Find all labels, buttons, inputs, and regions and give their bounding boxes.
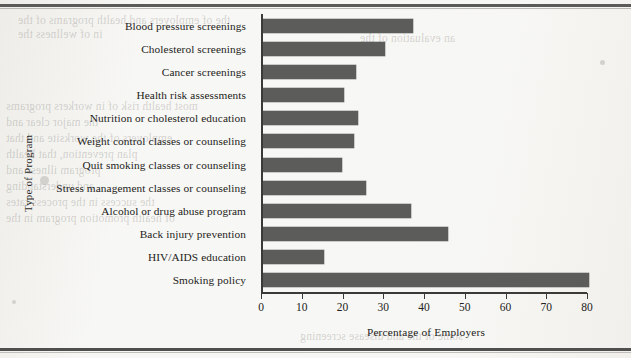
x-tick-label: 20 <box>323 301 363 313</box>
category-label: Cholesterol screenings <box>42 38 246 60</box>
category-label: Back injury prevention <box>42 223 246 245</box>
scanned-page: the of employers and health programs of … <box>0 0 631 358</box>
x-tick-mark <box>587 293 588 299</box>
x-tick-mark <box>465 293 466 299</box>
x-tick-label: 0 <box>241 301 281 313</box>
bar <box>263 204 412 218</box>
category-label: Smoking policy <box>42 269 246 291</box>
category-label: HIV/AIDS education <box>42 246 246 268</box>
bar <box>263 42 385 56</box>
x-tick-label: 50 <box>445 301 485 313</box>
bar <box>263 273 589 287</box>
x-tick-label: 40 <box>404 301 444 313</box>
x-axis-title: Percentage of Employers <box>261 326 591 338</box>
category-label: Quit smoking classes or counseling <box>42 154 246 176</box>
bar <box>263 19 414 33</box>
x-tick-label: 10 <box>282 301 322 313</box>
x-tick-label: 80 <box>567 301 607 313</box>
category-label: Stress management classes or counseling <box>42 177 246 199</box>
x-tick-mark <box>261 293 262 299</box>
category-label: Cancer screenings <box>42 61 246 83</box>
x-tick-mark <box>343 293 344 299</box>
bar <box>263 134 355 148</box>
category-label: Weight control classes or counseling <box>42 130 246 152</box>
bar <box>263 65 357 79</box>
y-axis-title: Type of Program <box>22 108 38 238</box>
bar <box>263 158 342 172</box>
x-tick-mark <box>302 293 303 299</box>
x-tick-mark <box>424 293 425 299</box>
y-axis-category-labels: Blood pressure screeningsCholesterol scr… <box>46 14 254 292</box>
bar <box>263 181 367 195</box>
x-tick-label: 70 <box>526 301 566 313</box>
bar <box>263 111 359 125</box>
horizontal-bar-chart: Type of Program Blood pressure screening… <box>0 0 631 358</box>
plot-area: 01020304050607080 <box>261 14 591 292</box>
x-tick-label: 30 <box>363 301 403 313</box>
bar <box>263 227 448 241</box>
category-label: Health risk assessments <box>42 84 246 106</box>
x-tick-mark <box>506 293 507 299</box>
bar <box>263 88 345 102</box>
x-tick-label: 60 <box>486 301 526 313</box>
category-label: Alcohol or drug abuse program <box>42 200 246 222</box>
x-tick-mark <box>546 293 547 299</box>
bar <box>263 250 324 264</box>
category-label: Nutrition or cholesterol education <box>42 107 246 129</box>
x-tick-mark <box>383 293 384 299</box>
category-label: Blood pressure screenings <box>42 15 246 37</box>
